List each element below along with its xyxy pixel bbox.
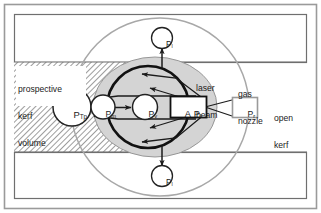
node-p-v-sub: v [154,113,157,119]
node-p-l-top-label: Pl [157,32,173,58]
prospective-kerf-label-line2: kerf [18,112,62,121]
prospective-kerf-label-line1: prospective [18,85,62,94]
node-p-l-top-sub: l [172,43,173,49]
prospective-kerf-label-line3: volume [18,139,62,148]
prospective-kerf-label: prospective kerf volume [18,67,62,166]
laser-beam-annotation-line1: laser [196,84,218,93]
open-kerf-label-line2: kerf [274,141,293,150]
node-p-v-label: Pv [139,101,157,128]
gas-nozzle-annotation-line1: gas [238,90,263,99]
node-p-m-label: Pm [96,101,116,128]
node-p-l-bottom-sub: l [172,181,173,187]
open-kerf-label-line1: open [274,114,293,123]
node-absorbed-power-label: APL [175,100,203,129]
node-p-tp-sub: Tp [80,113,87,120]
open-kerf-label: open kerf [274,96,293,168]
node-p-m-sub: m [111,113,116,119]
node-absorbed-power-sub: L [200,112,203,119]
node-p-l-bottom-label: Pl [157,170,173,196]
node-p-r-sub: r [253,113,255,119]
node-p-tp-label: PTp [63,100,87,131]
node-p-r-label: Pr [238,101,255,128]
node-absorbed-power-prefix: A [185,109,191,119]
diagram-canvas: prospective kerf volume open kerf laser … [0,0,321,213]
